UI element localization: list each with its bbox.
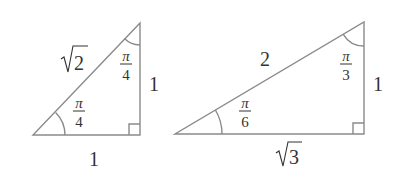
triangle-30-60-90: 2 1 3 π 3 π 6 xyxy=(175,22,383,168)
angle-numerator: π xyxy=(75,95,83,111)
triangle-2-outline xyxy=(175,22,364,134)
horizontal-leg-label-1: 1 xyxy=(89,148,99,170)
angle-denominator: 4 xyxy=(75,114,83,130)
hypotenuse-label-2: 2 xyxy=(260,48,270,70)
radicand-2: 2 xyxy=(74,52,84,74)
angle-numerator: π xyxy=(241,95,249,111)
angle-label-bottom-1: π 4 xyxy=(73,95,85,130)
vertical-leg-label-2: 1 xyxy=(373,73,383,95)
triangles-diagram: 2 1 1 π 4 π 4 2 1 3 xyxy=(0,0,401,180)
angle-label-top-2: π 3 xyxy=(340,48,352,83)
radicand-3: 3 xyxy=(289,146,299,168)
angle-denominator: 6 xyxy=(241,114,249,130)
triangle-45-45-90: 2 1 1 π 4 π 4 xyxy=(33,23,159,170)
vertical-leg-label-1: 1 xyxy=(149,73,159,95)
angle-label-top-1: π 4 xyxy=(120,48,132,83)
horizontal-leg-label-2: 3 xyxy=(276,142,302,168)
right-angle-marker-2 xyxy=(353,123,364,134)
angle-numerator: π xyxy=(122,48,130,64)
angle-arc-top-1 xyxy=(124,39,140,45)
hypotenuse-label-1: 2 xyxy=(61,46,88,74)
angle-denominator: 3 xyxy=(342,67,350,83)
angle-arc-bottom-2 xyxy=(215,110,222,134)
angle-label-bottom-2: π 6 xyxy=(239,95,251,130)
angle-arc-bottom-1 xyxy=(56,112,65,135)
right-angle-marker-1 xyxy=(129,124,140,135)
angle-numerator: π xyxy=(342,48,350,64)
angle-denominator: 4 xyxy=(122,67,130,83)
angle-arc-top-2 xyxy=(343,34,364,46)
